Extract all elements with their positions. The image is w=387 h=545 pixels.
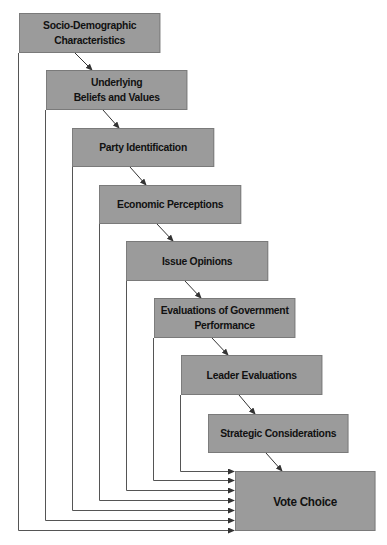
node-issue-opinions: Issue Opinions bbox=[126, 241, 268, 281]
node-label: Leader Evaluations bbox=[207, 368, 297, 383]
node-label: Vote Choice bbox=[273, 494, 337, 509]
node-socio-demographic: Socio-Demographic Characteristics bbox=[19, 13, 160, 53]
node-label: Economic Perceptions bbox=[117, 197, 223, 212]
edge-n6-n7 bbox=[212, 338, 228, 355]
edge-n7-n8 bbox=[239, 395, 255, 414]
node-label: Characteristics bbox=[43, 33, 136, 48]
node-strategic-considerations: Strategic Considerations bbox=[208, 414, 348, 453]
node-party-identification: Party Identification bbox=[72, 128, 214, 167]
node-label: Issue Opinions bbox=[162, 254, 232, 269]
edge-n4-n5 bbox=[157, 224, 173, 241]
node-label: Underlying bbox=[74, 75, 160, 90]
node-label: Party Identification bbox=[99, 140, 187, 155]
edge-n5-n6 bbox=[185, 281, 201, 298]
node-label: Beliefs and Values bbox=[74, 90, 160, 105]
node-leader-evaluations: Leader Evaluations bbox=[181, 355, 322, 395]
edge-n2-n3 bbox=[103, 110, 119, 128]
edge-n1-n2 bbox=[75, 53, 92, 70]
funnel-diagram: Socio-Demographic Characteristics Underl… bbox=[0, 0, 387, 545]
node-label: Strategic Considerations bbox=[220, 426, 336, 441]
node-label: Evaluations of Government bbox=[161, 303, 289, 318]
node-government-performance: Evaluations of Government Performance bbox=[154, 298, 295, 338]
edge-n8-n9 bbox=[266, 453, 282, 471]
node-vote-choice: Vote Choice bbox=[235, 471, 375, 531]
node-beliefs-values: Underlying Beliefs and Values bbox=[46, 70, 187, 110]
node-economic-perceptions: Economic Perceptions bbox=[99, 185, 241, 224]
node-label: Performance bbox=[161, 318, 289, 333]
edge-n3-n4 bbox=[130, 167, 146, 185]
node-label: Socio-Demographic bbox=[43, 18, 136, 33]
